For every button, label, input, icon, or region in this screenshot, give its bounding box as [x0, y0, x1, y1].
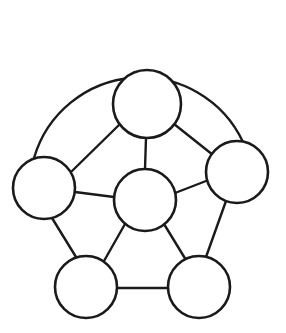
node-bottom-right[interactable] [168, 256, 230, 318]
node-center[interactable] [114, 169, 176, 231]
node-link-diagram [0, 0, 286, 333]
node-left[interactable] [13, 157, 75, 219]
node-top[interactable] [113, 70, 181, 138]
edge-center-bottomleft [104, 224, 125, 261]
edge-left-top [71, 124, 120, 172]
edge-center-bottomright [164, 224, 186, 260]
edge-right-center [175, 181, 206, 193]
edge-top-right [174, 124, 213, 155]
node-bottom-left[interactable] [55, 256, 117, 318]
edge-right-bottomright [206, 201, 226, 257]
node-right[interactable] [206, 141, 268, 203]
diagram-canvas [0, 0, 286, 333]
edge-left-bottomleft [52, 218, 76, 257]
edge-top-center [145, 138, 146, 169]
edge-left-center [75, 192, 114, 197]
